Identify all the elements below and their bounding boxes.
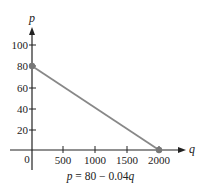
x-ticks: 500 1000 1500 2000 0 [24, 146, 170, 166]
x-tick-label: 2000 [148, 154, 171, 166]
y-tick-label: 20 [17, 124, 29, 136]
data-point-x-intercept [156, 147, 162, 153]
y-tick-label: 60 [17, 82, 29, 94]
x-axis-arrow-icon [178, 147, 186, 153]
caption-q: q [129, 170, 135, 182]
y-tick-label: 100 [12, 39, 29, 51]
x-tick-label: 500 [55, 154, 72, 166]
demand-line [32, 66, 159, 150]
y-tick-label: 80 [17, 60, 29, 72]
x-tick-label: 1000 [84, 154, 107, 166]
y-tick-label: 40 [17, 103, 29, 115]
equation-caption: p = 80 − 0.04q [0, 170, 201, 182]
chart-canvas: q p 100 80 60 40 20 500 1000 1500 2000 0 [0, 0, 201, 193]
y-axis-arrow-icon [29, 27, 35, 35]
caption-eq: = 80 − 0.04 [72, 170, 128, 182]
origin-label: 0 [24, 153, 30, 165]
x-axis-label: q [189, 142, 195, 156]
y-axis-label: p [28, 11, 35, 25]
data-point-y-intercept [29, 63, 35, 69]
x-tick-label: 1500 [116, 154, 139, 166]
